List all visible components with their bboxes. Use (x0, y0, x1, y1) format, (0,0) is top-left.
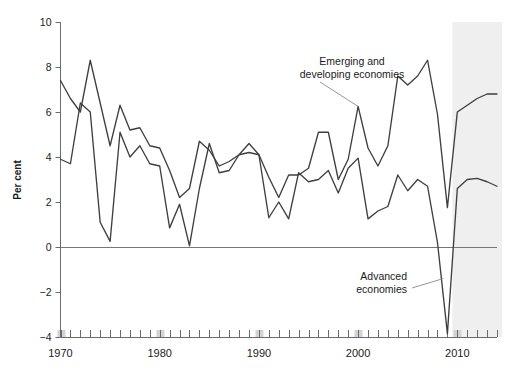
y-tick-label: 4 (46, 151, 52, 163)
emerging-annotation-line1: Emerging and (319, 55, 385, 67)
x-tick-label: 2010 (445, 347, 469, 359)
chart-background (0, 0, 511, 382)
y-tick-label: 10 (40, 16, 52, 28)
growth-line-chart: 1086420−2−4 19701980199020002010 Per cen… (0, 0, 511, 382)
y-tick-label: −4 (40, 331, 52, 343)
forecast-shaded-region (452, 22, 502, 337)
chart-container: 1086420−2−4 19701980199020002010 Per cen… (0, 0, 511, 382)
advanced-annotation-line1: Advanced (360, 270, 407, 282)
advanced-annotation-line2: economies (356, 283, 407, 295)
x-tick-label: 1970 (48, 347, 72, 359)
x-tick-label: 2000 (346, 347, 370, 359)
y-tick-label: 8 (46, 61, 52, 73)
x-tick-label: 1990 (247, 347, 271, 359)
y-tick-label: 6 (46, 106, 52, 118)
y-tick-label: 2 (46, 196, 52, 208)
y-axis-title: Per cent (12, 160, 23, 200)
x-tick-label: 1980 (147, 347, 171, 359)
y-tick-label: −2 (40, 286, 52, 298)
emerging-annotation-line2: developing economies (300, 68, 405, 80)
y-tick-label: 0 (46, 241, 52, 253)
